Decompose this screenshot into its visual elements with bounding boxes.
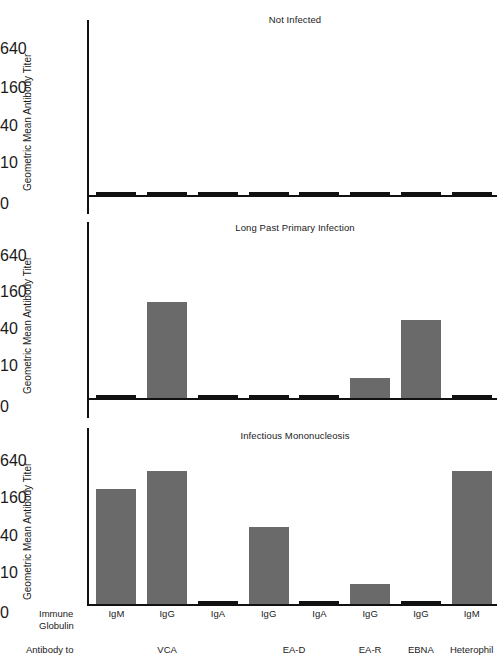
x-group-label-ea-d: EA-D xyxy=(283,644,306,655)
x-category-6-igg: IgG xyxy=(413,608,428,621)
x-axis-category-labels: ImmuneGlobulinAntibody toIgMIgGIgAIgGIgA… xyxy=(0,0,503,665)
antibody-to-row-label: Antibody to xyxy=(26,644,74,657)
x-category-7-igm: IgM xyxy=(464,608,480,621)
immune-globulin-row-label-2: Globulin xyxy=(39,620,74,633)
x-category-3-igg: IgG xyxy=(261,608,276,621)
ebv-antibody-figure: Not Infected64016040100Geometric Mean An… xyxy=(0,0,503,665)
x-category-1-igg: IgG xyxy=(159,608,174,621)
x-category-2-iga: IgA xyxy=(211,608,225,621)
x-group-label-ea-r: EA-R xyxy=(359,644,382,655)
x-category-0-igm: IgM xyxy=(108,608,124,621)
x-group-label-ebna: EBNA xyxy=(408,644,434,655)
x-group-label-heterophil: Heterophil xyxy=(450,644,493,655)
immune-globulin-row-label: Immune xyxy=(39,608,73,621)
x-group-label-vca: VCA xyxy=(157,644,177,655)
x-category-4-iga: IgA xyxy=(312,608,326,621)
x-category-5-igg: IgG xyxy=(362,608,377,621)
